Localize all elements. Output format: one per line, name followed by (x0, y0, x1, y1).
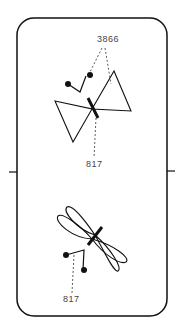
wing-upper-left-2 (66, 207, 95, 235)
ref-label-top: 3866 (97, 34, 119, 44)
leg-dot-left (63, 252, 69, 258)
antenna-dot-right (87, 72, 93, 78)
ref-label-middle: 817 (86, 159, 103, 169)
leader-817-upper (94, 118, 96, 158)
patent-diagram: 3866 817 817 (0, 0, 185, 335)
ref-label-bottom: 817 (63, 294, 80, 304)
leader-3866-a (90, 48, 102, 72)
leader-817-lower (72, 255, 74, 293)
wing-lower-right-2 (95, 235, 119, 271)
leg-lines (66, 250, 84, 270)
bowtie-shape (55, 48, 131, 158)
leg-dot-right (81, 267, 87, 273)
wing-upper-left (57, 215, 92, 239)
dragonfly-shape (57, 207, 126, 272)
antenna-dot-left (65, 81, 71, 87)
